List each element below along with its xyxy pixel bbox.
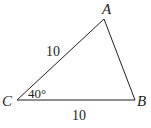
vertex-label-b: B bbox=[137, 93, 146, 109]
vertex-label-a: A bbox=[101, 1, 112, 17]
angle-label-c: 40° bbox=[28, 86, 46, 101]
triangle-diagram: A C B 10 10 40° bbox=[0, 0, 151, 128]
side-label-cb: 10 bbox=[72, 108, 86, 123]
side-label-ca: 10 bbox=[46, 44, 60, 59]
vertex-label-c: C bbox=[2, 93, 13, 109]
